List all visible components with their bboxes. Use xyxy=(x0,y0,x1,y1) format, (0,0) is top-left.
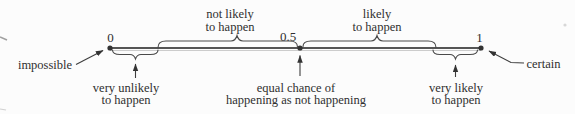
label-very-likely-line2: to happen xyxy=(432,93,482,107)
brace-very-likely xyxy=(433,50,478,59)
label-equal-chance-line2: happening as not happening xyxy=(226,93,367,107)
probability-number-line-figure: 0 0.5 1 impossible certain not likely to… xyxy=(0,0,575,114)
label-very-likely: very likely to happen xyxy=(429,81,484,107)
scan-artifact-bottom-left xyxy=(0,109,6,110)
arrow-certain xyxy=(489,51,524,63)
label-impossible: impossible xyxy=(18,58,73,72)
brace-very-unlikely xyxy=(113,50,159,59)
label-not-likely-line1: not likely xyxy=(206,7,254,21)
label-likely-line1: likely xyxy=(363,7,392,21)
tick-label-1: 1 xyxy=(476,30,483,45)
arrow-impossible xyxy=(76,51,103,65)
scan-artifact-top-right xyxy=(563,23,566,26)
brace-likely xyxy=(303,36,436,48)
point-0-5 xyxy=(297,45,302,50)
diagram-canvas: 0 0.5 1 impossible certain not likely to… xyxy=(0,0,575,114)
brace-not-likely xyxy=(158,36,298,48)
label-equal-chance: equal chance of happening as not happeni… xyxy=(226,81,367,107)
tick-label-0: 0 xyxy=(107,30,114,45)
label-likely: likely to happen xyxy=(353,7,403,34)
scan-artifact-left-edge xyxy=(0,37,7,40)
label-not-likely: not likely to happen xyxy=(206,7,256,34)
point-0 xyxy=(107,45,112,50)
label-not-likely-line2: to happen xyxy=(206,20,256,34)
label-certain: certain xyxy=(526,57,561,71)
label-very-unlikely: very unlikely to happen xyxy=(93,81,160,107)
point-1 xyxy=(478,45,483,50)
label-likely-line2: to happen xyxy=(353,20,403,34)
label-very-unlikely-line2: to happen xyxy=(102,93,152,107)
